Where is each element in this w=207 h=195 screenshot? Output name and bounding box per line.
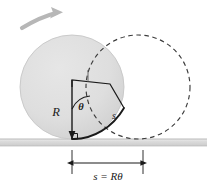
- arc-length-equation-label: s = Rθ: [93, 170, 123, 182]
- radius-label: R: [51, 105, 60, 119]
- arc-label: s: [112, 110, 116, 121]
- ground-line: [0, 139, 207, 146]
- angle-label: θ: [78, 101, 84, 112]
- rolling-circle-diagram: R θ s s = Rθ: [0, 0, 207, 195]
